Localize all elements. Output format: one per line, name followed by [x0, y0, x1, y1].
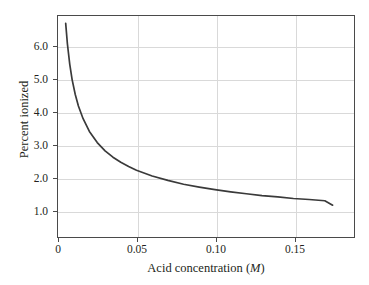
ytick-6.0	[53, 46, 57, 47]
xtick-0.05	[137, 238, 138, 242]
yticklabel-4.0: 4.0	[34, 106, 48, 119]
yticklabel-1.0: 1.0	[34, 205, 48, 218]
xtick-0	[58, 238, 59, 242]
x-axis-title-close: )	[260, 261, 264, 275]
ytick-2.0	[53, 178, 57, 179]
yticklabel-3.0: 3.0	[34, 139, 48, 152]
yticklabel-2.0: 2.0	[34, 172, 48, 185]
ytick-1.0	[53, 211, 57, 212]
chart-figure: 0 0.05 0.10 0.15 6.0 5.0 4.0 3.0 2.0 1.0…	[0, 0, 369, 285]
xticklabel-0: 0	[55, 243, 61, 256]
ytick-3.0	[53, 145, 57, 146]
xtick-0.15	[295, 238, 296, 242]
ytick-5.0	[53, 79, 57, 80]
x-axis-title-text: Acid concentration (	[147, 261, 250, 275]
x-axis-unit: M	[250, 261, 260, 275]
xticklabel-0.05: 0.05	[127, 243, 147, 256]
y-axis-title: Percent ionized	[17, 50, 32, 190]
xtick-0.10	[216, 238, 217, 242]
plot-area	[57, 15, 355, 238]
ytick-4.0	[53, 112, 57, 113]
percent-ionized-curve	[58, 16, 354, 237]
x-axis-title: Acid concentration (M)	[57, 261, 355, 276]
yticklabel-6.0: 6.0	[34, 40, 48, 53]
yticklabel-5.0: 5.0	[34, 73, 48, 86]
xticklabel-0.15: 0.15	[285, 243, 305, 256]
xticklabel-0.10: 0.10	[206, 243, 226, 256]
